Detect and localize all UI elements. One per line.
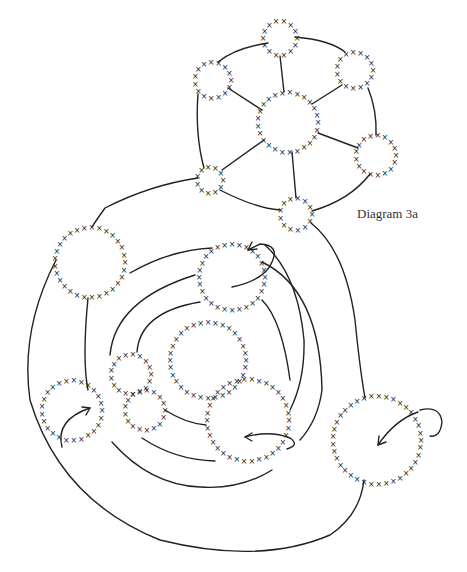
svg-text:×: × (136, 387, 143, 396)
svg-text:×: × (292, 27, 299, 36)
svg-text:×: × (214, 303, 221, 312)
svg-text:×: × (221, 305, 228, 314)
stitch-ring-far-right: ××××××××××××××××××××××××××××××××××××× (330, 392, 425, 489)
svg-text:×: × (256, 455, 263, 464)
svg-text:×: × (205, 318, 212, 327)
svg-text:×: × (89, 223, 96, 232)
stitch-ring-small-left-b: ××××××××××××××××× (122, 386, 168, 435)
svg-text:×: × (143, 386, 150, 395)
svg-text:×: × (374, 171, 381, 180)
svg-text:×: × (368, 392, 375, 401)
svg-text:×: × (201, 60, 208, 69)
svg-text:×: × (273, 51, 280, 60)
svg-text:×: × (129, 350, 136, 359)
svg-text:×: × (146, 363, 153, 372)
svg-text:×: × (287, 195, 294, 204)
svg-text:×: × (226, 453, 233, 462)
svg-text:×: × (354, 397, 361, 406)
svg-text:×: × (248, 375, 255, 384)
svg-text:×: × (71, 376, 78, 385)
svg-text:×: × (256, 377, 263, 386)
svg-text:×: × (151, 424, 158, 433)
svg-text:×: × (287, 47, 294, 56)
svg-text:×: × (241, 375, 248, 384)
svg-text:×: × (190, 391, 197, 400)
svg-text:×: × (280, 17, 287, 26)
svg-text:×: × (279, 89, 286, 98)
svg-text:×: × (301, 143, 308, 152)
stitch-ring-center-hub: ××××××××××××××××××××××××× (255, 88, 322, 157)
stitch-ring-center-big: ×××××××××××××××××××××××××××××××× (167, 318, 250, 403)
svg-text:×: × (109, 285, 116, 294)
svg-text:×: × (287, 148, 294, 157)
svg-text:×: × (190, 321, 197, 330)
svg-text:×: × (294, 90, 301, 99)
svg-text:×: × (350, 84, 357, 93)
svg-text:×: × (78, 435, 85, 444)
svg-text:×: × (272, 145, 279, 154)
svg-text:×: × (205, 163, 212, 172)
svg-text:×: × (417, 429, 424, 438)
svg-text:×: × (226, 69, 233, 78)
svg-text:×: × (263, 453, 270, 462)
svg-text:×: × (368, 59, 375, 68)
svg-text:×: × (367, 132, 374, 141)
svg-text:×: × (91, 427, 98, 436)
crochet-diagram: ××××××××××××××××××××××××××××××××××××××××… (0, 0, 467, 572)
svg-text:×: × (391, 144, 398, 153)
svg-text:×: × (236, 241, 243, 250)
svg-text:×: × (226, 388, 233, 397)
svg-text:×: × (98, 399, 105, 408)
svg-text:×: × (212, 319, 219, 328)
svg-text:×: × (242, 349, 249, 358)
svg-text:×: × (397, 474, 404, 483)
svg-text:×: × (243, 303, 250, 312)
svg-text:×: × (382, 169, 389, 178)
svg-text:×: × (214, 243, 221, 252)
svg-text:×: × (403, 469, 410, 478)
svg-text:×: × (361, 394, 368, 403)
svg-text:×: × (208, 94, 215, 103)
svg-text:×: × (383, 479, 390, 488)
svg-text:×: × (229, 240, 236, 249)
svg-text:×: × (226, 379, 233, 388)
stitch-ring-left-outer: ××××××××××××××××××××××××× (39, 376, 106, 445)
svg-text:×: × (236, 305, 243, 314)
svg-text:×: × (56, 379, 63, 388)
svg-text:×: × (121, 251, 128, 260)
svg-text:×: × (85, 431, 92, 440)
svg-text:×: × (302, 223, 309, 232)
svg-text:×: × (266, 21, 273, 30)
svg-text:×: × (215, 93, 222, 102)
svg-text:×: × (376, 480, 383, 489)
svg-text:×: × (222, 89, 229, 98)
svg-text:×: × (205, 189, 212, 198)
svg-text:×: × (354, 475, 361, 484)
svg-text:×: × (249, 299, 256, 308)
svg-text:×: × (156, 420, 163, 429)
svg-text:×: × (197, 319, 204, 328)
stitch-ring-big-left: ××××××××××××××××××××××××××××× (52, 223, 129, 302)
svg-text:×: × (374, 131, 381, 140)
svg-text:×: × (285, 409, 292, 418)
svg-text:×: × (295, 226, 302, 235)
svg-text:×: × (233, 377, 240, 386)
svg-text:×: × (221, 241, 228, 250)
svg-text:×: × (56, 433, 63, 442)
svg-text:×: × (229, 306, 236, 315)
svg-text:×: × (63, 436, 70, 445)
svg-text:×: × (307, 203, 314, 212)
svg-text:×: × (376, 392, 383, 401)
svg-text:×: × (103, 289, 110, 298)
stitch-ring-bottom-right-inner: ×××××××××××××××××××××××××××××××××× (204, 375, 293, 466)
svg-text:×: × (81, 224, 88, 233)
svg-text:×: × (350, 48, 357, 57)
svg-text:×: × (280, 51, 287, 60)
svg-text:×: × (248, 457, 255, 466)
svg-text:×: × (383, 393, 390, 402)
svg-text:×: × (343, 50, 350, 59)
svg-text:×: × (314, 111, 321, 120)
svg-text:×: × (233, 455, 240, 464)
svg-text:×: × (387, 165, 394, 174)
svg-text:×: × (136, 425, 143, 434)
